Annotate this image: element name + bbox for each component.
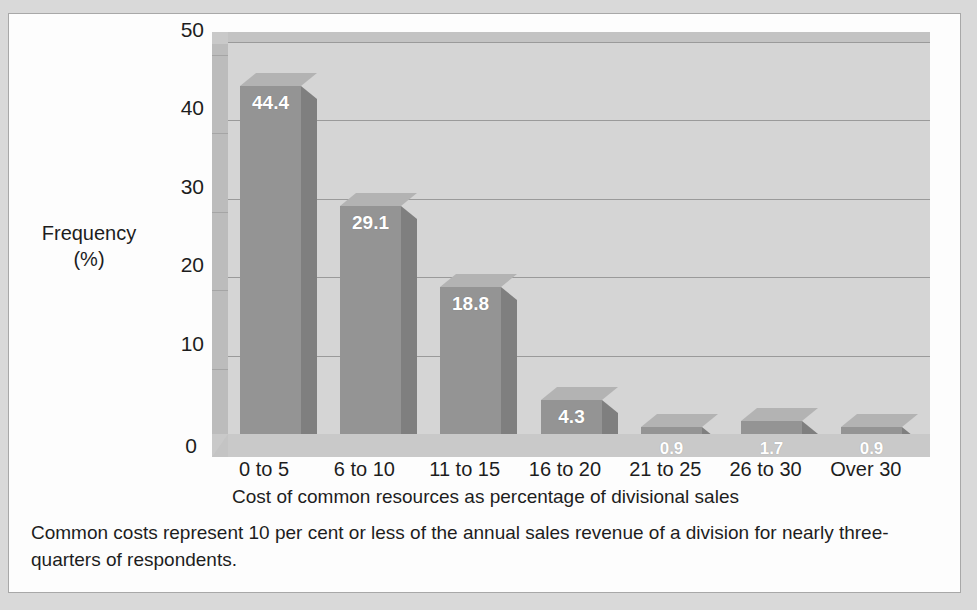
y-axis-title-line1: Frequency	[33, 220, 145, 246]
gridline-connector-20	[212, 277, 228, 291]
y-axis-title: Frequency (%)	[33, 220, 145, 272]
y-axis-title-line2: (%)	[33, 246, 145, 272]
bar-over-30: 0.9	[841, 427, 902, 447]
y-tick-label-20: 20	[142, 254, 204, 275]
figure-frame: 44.429.118.84.30.91.70.9 1020304050 0 Fr…	[8, 13, 961, 593]
gridline-10	[228, 356, 930, 357]
y-tick-label-50: 50	[142, 19, 204, 40]
x-tick-label-0-to-5: 0 to 5	[214, 457, 314, 481]
figure-caption: Common costs represent 10 per cent or le…	[31, 519, 943, 573]
bar-21-to-25: 0.9	[641, 427, 702, 447]
x-axis-title: Cost of common resources as percentage o…	[9, 486, 962, 508]
gridline-connector-50	[212, 42, 228, 56]
gridline-connector-30	[212, 199, 228, 213]
gridline-40	[228, 120, 930, 121]
bar-6-to-10: 29.1	[340, 206, 401, 447]
y-axis-tick-label-zero: 0	[161, 435, 197, 456]
bar-16-to-20: 4.3	[541, 400, 602, 447]
gridline-connector-40	[212, 120, 228, 134]
x-tick-label-16-to-20: 16 to 20	[515, 457, 615, 481]
bar-front-face	[641, 427, 702, 434]
bar-0-to-5: 44.4	[240, 86, 301, 447]
y-tick-label-30: 30	[142, 176, 204, 197]
chart-back-wall	[228, 42, 930, 434]
bar-side-face	[301, 86, 317, 434]
chart-plot-area: 44.429.118.84.30.91.70.9 1020304050 0 Fr…	[9, 14, 962, 594]
bar-value-label: 29.1	[340, 212, 401, 234]
x-tick-label-11-to-15: 11 to 15	[415, 457, 515, 481]
gridline-connector-10	[212, 356, 228, 370]
gridline-50	[228, 42, 930, 43]
y-tick-label-10: 10	[142, 333, 204, 354]
bar-value-label: 0.9	[841, 439, 902, 459]
bar-value-label: 18.8	[440, 293, 501, 315]
bar-front-face	[340, 206, 401, 434]
x-tick-label-over-30: Over 30	[816, 457, 916, 481]
scanned-page: 44.429.118.84.30.91.70.9 1020304050 0 Fr…	[0, 0, 977, 610]
bar-value-label: 1.7	[741, 439, 802, 459]
bar-front-face	[240, 86, 301, 434]
bar-value-label: 0.9	[641, 439, 702, 459]
bar-value-label: 4.3	[541, 406, 602, 428]
bar-front-face	[841, 427, 902, 434]
gridline-30	[228, 199, 930, 200]
bar-side-face	[501, 287, 517, 434]
gridline-20	[228, 277, 930, 278]
y-tick-label-40: 40	[142, 97, 204, 118]
bar-11-to-15: 18.8	[440, 287, 501, 447]
bar-value-label: 44.4	[240, 92, 301, 114]
x-axis-tick-labels: 0 to 56 to 1011 to 1516 to 2021 to 2526 …	[212, 457, 948, 487]
bar-26-to-30: 1.7	[741, 421, 802, 447]
x-tick-label-6-to-10: 6 to 10	[314, 457, 414, 481]
x-tick-label-21-to-25: 21 to 25	[615, 457, 715, 481]
chart-left-wall	[212, 44, 228, 446]
bar-front-face	[741, 421, 802, 434]
bar-side-face	[401, 206, 417, 434]
x-tick-label-26-to-30: 26 to 30	[715, 457, 815, 481]
